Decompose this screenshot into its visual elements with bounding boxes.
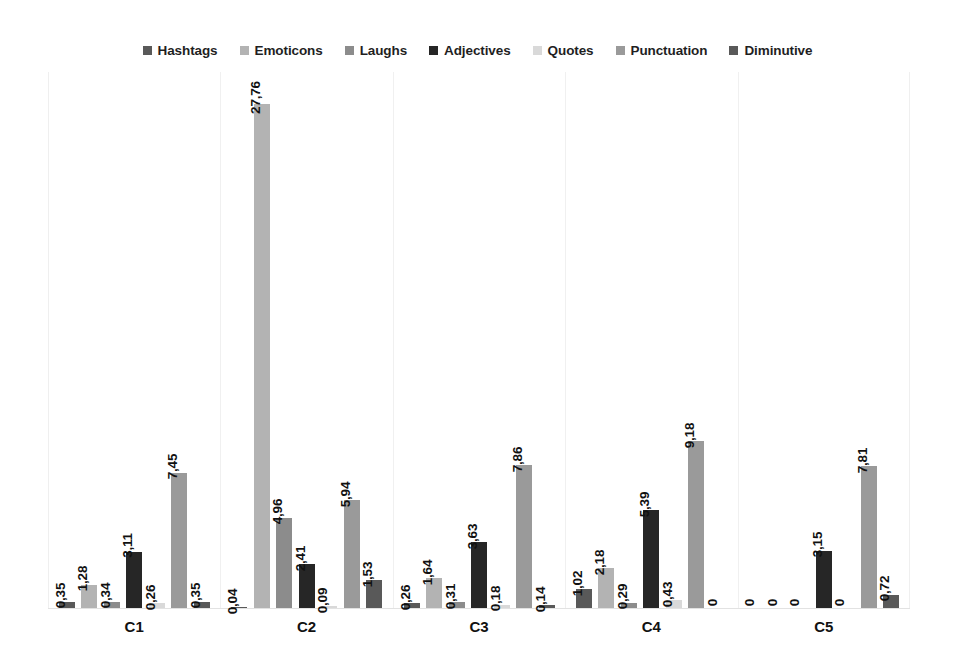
bar-slot: 0	[838, 72, 854, 608]
bar-slot: 0	[793, 72, 809, 608]
bar-punctuation-c2[interactable]	[344, 500, 360, 608]
category-label-c2: C2	[220, 618, 392, 635]
bar-slot: 1,02	[576, 72, 592, 608]
bar-group-c2: 0,0427,764,962,410,095,941,53	[228, 72, 386, 608]
bar-slot: 0,18	[494, 72, 510, 608]
bar-value-label: 7,45	[166, 454, 180, 479]
bar-value-label: 7,81	[855, 447, 869, 472]
legend-item-punctuation[interactable]: Punctuation	[616, 43, 708, 58]
bar-punctuation-c5[interactable]	[861, 466, 877, 608]
bar-slot: 0,34	[104, 72, 120, 608]
bar-punctuation-c3[interactable]	[516, 465, 532, 608]
bar-slot: 0	[771, 72, 787, 608]
bar-slot: 1,28	[81, 72, 97, 608]
bar-value-label: 1,64	[421, 559, 435, 584]
bar-value-label: 0,26	[143, 585, 157, 610]
bar-slot: 3,63	[471, 72, 487, 608]
bar-value-label: 1,28	[76, 566, 90, 591]
legend-item-hashtags[interactable]: Hashtags	[143, 43, 218, 58]
bar-slot: 2,41	[299, 72, 315, 608]
category-axis-line	[48, 608, 910, 609]
legend-item-label: Quotes	[548, 43, 594, 58]
bar-value-label: 0,04	[226, 589, 240, 614]
bar-value-label: 0,18	[488, 586, 502, 611]
bar-slot: 1,53	[366, 72, 382, 608]
bar-value-label: 3,63	[466, 523, 480, 548]
bar-value-label: 0	[705, 598, 719, 605]
bar-slot: 0	[711, 72, 727, 608]
bar-adjectives-c4[interactable]	[643, 510, 659, 608]
bar-value-label: 0	[765, 598, 779, 605]
bar-adjectives-c5[interactable]	[816, 551, 832, 608]
bar-value-label: 4,96	[271, 499, 285, 524]
bar-value-label: 27,76	[248, 81, 262, 114]
bar-punctuation-c1[interactable]	[171, 473, 187, 608]
legend-item-emoticons[interactable]: Emoticons	[240, 43, 323, 58]
bar-slot: 0,35	[59, 72, 75, 608]
bar-slot: 27,76	[254, 72, 270, 608]
legend-item-laughs[interactable]: Laughs	[345, 43, 407, 58]
bar-slot: 7,45	[171, 72, 187, 608]
bar-value-label: 0,29	[615, 584, 629, 609]
bar-value-label: 0,09	[316, 588, 330, 613]
legend-swatch-icon	[240, 46, 249, 55]
bar-slot: 0,09	[321, 72, 337, 608]
bar-slot: 5,94	[344, 72, 360, 608]
category-label-c4: C4	[565, 618, 737, 635]
legend-swatch-icon	[429, 46, 438, 55]
bar-slot: 0,72	[883, 72, 899, 608]
bar-adjectives-c3[interactable]	[471, 542, 487, 608]
bar-value-label: 9,18	[683, 422, 697, 447]
bar-slot: 0,43	[666, 72, 682, 608]
bar-slot: 0,26	[404, 72, 420, 608]
bar-adjectives-c1[interactable]	[126, 552, 142, 609]
bar-slot: 5,39	[643, 72, 659, 608]
bar-value-label: 0,35	[53, 583, 67, 608]
bar-slot: 0,29	[621, 72, 637, 608]
legend-item-label: Punctuation	[631, 43, 708, 58]
bar-value-label: 2,41	[293, 545, 307, 570]
legend-swatch-icon	[345, 46, 354, 55]
bar-slot: 4,96	[276, 72, 292, 608]
bar-value-label: 0	[788, 598, 802, 605]
bar-group-c1: 0,351,280,343,110,267,450,35	[55, 72, 213, 608]
bar-value-label: 2,18	[593, 550, 607, 575]
bar-slot: 2,18	[598, 72, 614, 608]
legend-swatch-icon	[729, 46, 738, 55]
legend-item-quotes[interactable]: Quotes	[533, 43, 594, 58]
legend-swatch-icon	[616, 46, 625, 55]
legend-item-label: Laughs	[360, 43, 407, 58]
bar-value-label: 3,11	[121, 533, 135, 558]
legend-item-label: Diminutive	[744, 43, 812, 58]
bar-value-label: 1,53	[361, 561, 375, 586]
bar-value-label: 0,26	[398, 585, 412, 610]
bar-value-label: 7,86	[511, 446, 525, 471]
group-separator	[220, 72, 221, 608]
bar-value-label: 0,43	[660, 581, 674, 606]
bar-punctuation-c4[interactable]	[688, 441, 704, 608]
legend-item-label: Adjectives	[444, 43, 511, 58]
group-separator	[738, 72, 739, 608]
bar-slot: 1,64	[426, 72, 442, 608]
legend-item-adjectives[interactable]: Adjectives	[429, 43, 511, 58]
bar-slot: 0,04	[231, 72, 247, 608]
legend-item-diminutive[interactable]: Diminutive	[729, 43, 812, 58]
bar-group-c3: 0,261,640,313,630,187,860,14	[400, 72, 558, 608]
bar-slot: 3,11	[126, 72, 142, 608]
bar-emoticons-c2[interactable]	[254, 104, 270, 608]
legend-item-label: Emoticons	[255, 43, 323, 58]
bar-value-label: 1,02	[570, 571, 584, 596]
bar-laughs-c2[interactable]	[276, 518, 292, 608]
group-separator	[565, 72, 566, 608]
bar-group-c5: 0003,1507,810,72	[745, 72, 903, 608]
bar-value-label: 5,94	[338, 481, 352, 506]
bar-slot: 0,31	[449, 72, 465, 608]
chart-legend: HashtagsEmoticonsLaughsAdjectivesQuotesP…	[0, 40, 955, 60]
bar-slot: 3,15	[816, 72, 832, 608]
group-separator	[393, 72, 394, 608]
bar-value-label: 0,34	[98, 583, 112, 608]
bar-slot: 0	[748, 72, 764, 608]
bar-slot: 9,18	[688, 72, 704, 608]
bar-slot: 7,86	[516, 72, 532, 608]
legend-item-label: Hashtags	[158, 43, 218, 58]
